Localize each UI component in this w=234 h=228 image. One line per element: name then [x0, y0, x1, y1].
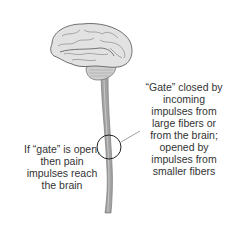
label-line: smaller fibers [134, 165, 234, 177]
label-line: “Gate” closed by [134, 81, 234, 93]
label-line: incoming [134, 93, 234, 105]
gate-closed-label: “Gate” closed by incoming impulses from … [134, 81, 234, 177]
label-line: from the brain; [134, 129, 234, 141]
label-line: large fibers or [134, 117, 234, 129]
gate-control-diagram: “Gate” closed by incoming impulses from … [0, 0, 234, 228]
label-line: the brain [14, 179, 110, 191]
label-line: impulses from [134, 153, 234, 165]
label-line: impulses from [134, 105, 234, 117]
label-line: If “gate” is open, [14, 143, 110, 155]
label-line: impulses reach [14, 167, 110, 179]
label-line: opened by [134, 141, 234, 153]
brain-icon [51, 24, 132, 81]
label-line: then pain [14, 155, 110, 167]
gate-open-label: If “gate” is open, then pain impulses re… [14, 143, 110, 191]
